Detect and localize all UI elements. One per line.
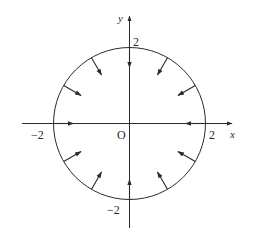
arrow-icon bbox=[158, 58, 168, 75]
arrow-icon bbox=[92, 172, 102, 189]
arrow-icon bbox=[178, 152, 195, 162]
x-axis-label: x bbox=[229, 128, 235, 140]
y-neg-tick-label: −2 bbox=[107, 203, 120, 217]
arrow-icon bbox=[178, 86, 195, 96]
x-pos-tick-label: 2 bbox=[209, 128, 215, 142]
arrow-icon bbox=[158, 172, 168, 189]
arrow-icon bbox=[64, 152, 81, 162]
y-pos-tick-label: 2 bbox=[133, 35, 139, 49]
arrow-icon bbox=[92, 58, 102, 75]
diagram-canvas: y 2 −2 −2 O 2 x bbox=[0, 0, 253, 242]
y-axis-label: y bbox=[117, 12, 123, 24]
radial-field-diagram: y 2 −2 −2 O 2 x bbox=[0, 0, 253, 242]
origin-label: O bbox=[117, 128, 126, 142]
arrow-icon bbox=[64, 86, 81, 96]
x-neg-tick-label: −2 bbox=[31, 128, 44, 142]
